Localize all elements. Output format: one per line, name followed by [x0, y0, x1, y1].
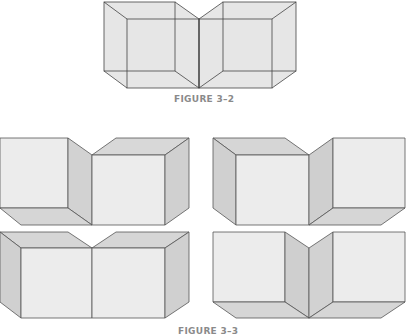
figure-3-3-top-left [0, 138, 189, 225]
figure-3-3-top-right [213, 138, 405, 225]
figure-3-3-bottom-right [213, 232, 405, 318]
figure-3-3-bottom-left [0, 232, 189, 318]
figure-3-3-caption: FIGURE 3–3 [178, 326, 238, 336]
figure-3-2-wireframe [104, 2, 296, 88]
figure-3-2-caption: FIGURE 3–2 [174, 94, 234, 104]
